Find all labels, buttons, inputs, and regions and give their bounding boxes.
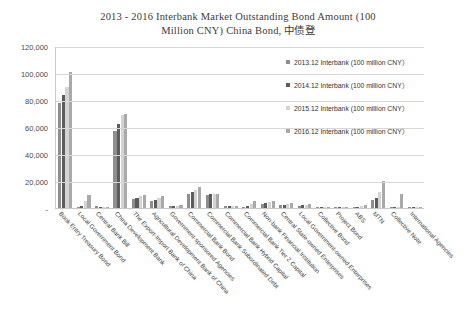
gridline-20000 [56,182,424,183]
x-axis-labels: Book Entry Treasury BondLocal Government… [55,210,424,330]
bar [253,201,256,208]
bar [69,72,72,208]
bar [235,206,238,208]
legend-swatch-icon [286,106,290,110]
legend-label: 2015.12 Interbank (100 million CNY） [294,103,409,113]
bar [161,196,164,208]
x-axis-label: ABS [353,210,367,224]
y-axis-labels: 120,000100,00080,00060,00040,00020,000- [0,40,52,216]
legend-swatch-icon [286,83,290,87]
bar [272,201,275,208]
chart-title-line-2: Million CNY) China Bond, 中债登 [48,24,428,38]
y-axis-tick-0: - [46,205,49,214]
legend-item: 2014.12 Interbank (100 million CNY） [286,76,456,94]
chart-title: 2013 - 2016 Interbank Market Outstanding… [48,10,428,38]
bar [382,181,385,208]
bar [179,205,182,208]
y-axis-tick-100000: 100,000 [21,70,48,79]
y-axis-tick-20000: 20,000 [25,178,48,187]
legend-label: 2014.12 Interbank (100 million CNY） [294,80,409,90]
chart-title-line-1: 2013 - 2016 Interbank Market Outstanding… [48,10,428,24]
legend-item: 2013.12 Interbank (100 million CNY） [286,53,456,71]
y-axis-tick-80000: 80,000 [25,97,48,106]
bar [198,187,201,208]
y-axis-tick-60000: 60,000 [25,124,48,133]
bar-chart: 2013 - 2016 Interbank Market Outstanding… [0,0,472,336]
legend-swatch-icon [286,60,290,64]
bar [419,207,422,208]
bar [106,207,109,208]
bar [345,207,348,208]
legend-label: 2016.12 Interbank (100 million CNY） [294,126,409,136]
legend-item: 2016.12 Interbank (100 million CNY） [286,122,456,140]
x-axis-label: MTN [372,210,386,225]
chart-legend: 2013.12 Interbank (100 million CNY）2014.… [286,53,456,145]
y-axis-tick-120000: 120,000 [21,43,48,52]
bar [400,194,403,208]
bar [216,194,219,208]
gridline-40000 [56,155,424,156]
bar [308,204,311,208]
gridline-120000 [56,47,424,48]
bar [364,205,367,209]
bar [327,207,330,208]
bar [143,195,146,208]
legend-label: 2013.12 Interbank (100 million CNY） [294,57,409,67]
legend-item: 2015.12 Interbank (100 million CNY） [286,99,456,117]
bar [290,203,293,208]
y-axis-tick-40000: 40,000 [25,151,48,160]
bar [87,195,90,209]
legend-swatch-icon [286,129,290,133]
